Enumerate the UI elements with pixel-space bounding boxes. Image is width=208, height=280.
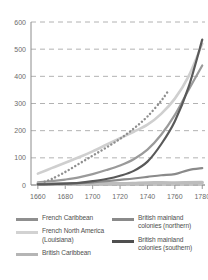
x-axis-tick-label: 1720: [112, 193, 128, 200]
legend-label: French North America (Louisiana): [42, 227, 112, 244]
y-axis-tick-label: 100: [14, 154, 26, 161]
legend-swatch-icon: [16, 218, 38, 221]
legend-label: French Caribbean: [42, 214, 93, 222]
x-axis-tick-label: 1780: [194, 193, 208, 200]
gridlines-group: [31, 22, 205, 185]
chart-page: 0100200300400500600 16601680170017201740…: [0, 0, 208, 280]
legend-item[interactable]: British mainland colonies (northern): [112, 214, 208, 231]
y-axis-tick-label: 200: [14, 127, 26, 134]
legend-item[interactable]: British mainland colonies (southern): [112, 236, 208, 253]
x-axis-tick-label: 1700: [85, 193, 101, 200]
chart-plot-area: 0100200300400500600 16601680170017201740…: [0, 0, 208, 212]
chart-legend: French CaribbeanFrench North America (Lo…: [0, 214, 208, 280]
y-axis-tick-label: 0: [22, 182, 26, 189]
series-group: [38, 40, 202, 185]
x-axis-tick-label: 1760: [167, 193, 183, 200]
y-axis-tick-label: 600: [14, 19, 26, 26]
x-axis-tick-label: 1680: [57, 193, 73, 200]
legend-swatch-icon: [16, 253, 38, 256]
series-line-5: [45, 91, 168, 181]
legend-item[interactable]: British Caribbean: [16, 249, 112, 257]
line-chart-svg: 0100200300400500600 16601680170017201740…: [0, 0, 208, 212]
legend-swatch-icon: [16, 231, 38, 234]
x-axis-labels-group: 1660168017001720174017601780: [30, 193, 208, 200]
legend-item[interactable]: French Caribbean: [16, 214, 112, 222]
legend-label: British mainland colonies (northern): [138, 214, 208, 231]
y-axis-tick-label: 300: [14, 100, 26, 107]
legend-swatch-icon: [112, 240, 134, 243]
legend-item[interactable]: French North America (Louisiana): [16, 227, 112, 244]
legend-swatch-icon: [112, 218, 134, 221]
legend-column-left: French CaribbeanFrench North America (Lo…: [0, 214, 112, 280]
legend-column-right: British mainland colonies (northern)Brit…: [112, 214, 208, 280]
x-axis-tick-label: 1660: [30, 193, 46, 200]
y-axis-tick-label: 400: [14, 73, 26, 80]
legend-label: British mainland colonies (southern): [138, 236, 208, 253]
legend-label: British Caribbean: [42, 249, 91, 257]
x-axis-tick-label: 1740: [140, 193, 156, 200]
y-axis-tick-label: 500: [14, 46, 26, 53]
y-axis-labels-group: 0100200300400500600: [14, 19, 26, 189]
